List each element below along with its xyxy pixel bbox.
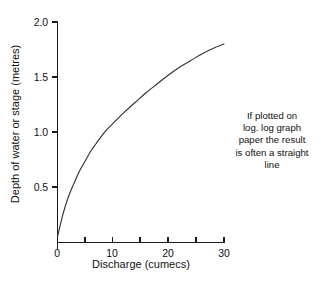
annotation-line-5: line xyxy=(228,159,316,171)
annotation-line-2: log. log graph xyxy=(228,122,316,134)
annotation-line-4: is often a straight xyxy=(228,147,316,159)
annotation-line-1: If plotted on xyxy=(228,110,316,122)
rating-curve-line xyxy=(58,44,225,237)
rating-curve-figure: 2.0 1.5 1.0 0.5 0 10 20 30 Discharge (cu… xyxy=(0,0,321,288)
annotation-line-3: paper the result xyxy=(228,134,316,146)
x-axis-title: Discharge (cumecs) xyxy=(57,258,225,270)
y-axis-title-container: Depth of water or stage (metres) xyxy=(0,0,28,250)
loglog-annotation: If plotted on log. log graph paper the r… xyxy=(228,110,316,171)
y-axis-title: Depth of water or stage (metres) xyxy=(9,24,21,224)
y-axis-ticks xyxy=(52,22,58,187)
